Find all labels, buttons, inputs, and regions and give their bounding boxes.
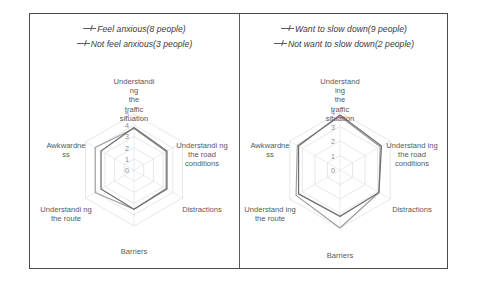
- legend-label: Want to slow down(9 people): [295, 24, 407, 34]
- axis-category-label: Understand ingthe roadconditions: [386, 141, 438, 168]
- axis-category-label: Understandi ngthe route: [40, 205, 92, 223]
- line-marker-icon: [83, 24, 96, 33]
- series-polygon-not-want-slow-down: [296, 116, 380, 228]
- category-labels-right: UnderstandingthetrafficsituationUndersta…: [244, 77, 438, 260]
- axis-category-label: Understand ingthe route: [244, 205, 296, 223]
- axis-category-label: Understandingthetrafficsituation: [114, 77, 155, 123]
- radial-tick-label: 3: [331, 123, 335, 132]
- radial-tick-label: 2: [331, 137, 335, 146]
- legend-left: Feel anxious(8 people) Not feel anxious(…: [30, 21, 239, 51]
- axis-category-label: Barriers: [121, 247, 148, 256]
- legend-item: Want to slow down(9 people): [240, 21, 448, 36]
- line-marker-icon: [77, 39, 90, 48]
- chart-panel-right: Want to slow down(9 people) Not want to …: [240, 14, 448, 268]
- legend-item: Not feel anxious(3 people): [30, 36, 239, 51]
- radial-tick-label: 0: [125, 166, 129, 175]
- radial-tick-label: 1: [125, 155, 129, 164]
- radar-chart-left: 012345 UnderstandingthetrafficsituationU…: [30, 62, 239, 270]
- axis-category-label: Barriers: [327, 251, 354, 260]
- radial-tick-label: 1: [331, 152, 335, 161]
- axis-category-label: Distractions: [182, 205, 222, 214]
- radial-tick-label: 0: [331, 166, 335, 175]
- axis-category-label: Understandingthetrafficsituation: [320, 77, 359, 123]
- radar-svg-right: 01234 UnderstandingthetrafficsituationUn…: [240, 62, 448, 270]
- legend-label: Not want to slow down(2 people): [288, 39, 414, 49]
- legend-item: Not want to slow down(2 people): [240, 36, 448, 51]
- legend-item: Feel anxious(8 people): [30, 21, 239, 36]
- figure-frame: Feel anxious(8 people) Not feel anxious(…: [29, 13, 448, 269]
- line-marker-icon: [281, 24, 294, 33]
- axis-category-label: Awkwardness: [250, 141, 289, 159]
- spokes-right: [290, 112, 390, 228]
- radar-chart-right: 01234 UnderstandingthetrafficsituationUn…: [240, 62, 448, 270]
- legend-label: Not feel anxious(3 people): [91, 39, 193, 49]
- axis-category-label: Distractions: [392, 205, 432, 214]
- axis-category-label: Awkwardness: [46, 141, 85, 159]
- series-polygon-not-feel-anxious: [95, 129, 166, 210]
- radar-svg-left: 012345 UnderstandingthetrafficsituationU…: [30, 62, 239, 270]
- line-marker-icon: [274, 39, 287, 48]
- legend-right: Want to slow down(9 people) Not want to …: [240, 21, 448, 51]
- axis-category-label: Understandi ngthe roadconditions: [176, 141, 228, 168]
- chart-panel-left: Feel anxious(8 people) Not feel anxious(…: [30, 14, 239, 268]
- radial-tick-label: 2: [125, 144, 129, 153]
- radial-tick-label: 3: [125, 132, 129, 141]
- legend-label: Feel anxious(8 people): [97, 24, 186, 34]
